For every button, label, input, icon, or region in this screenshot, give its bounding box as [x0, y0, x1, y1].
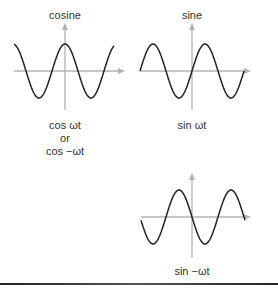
sine-title: sine	[152, 9, 232, 22]
neg-sine-panel	[141, 173, 251, 258]
sine-y-arrow-icon	[189, 23, 195, 30]
bottom-rule	[0, 283, 278, 285]
cosine-caption-3: cos −ωt	[25, 145, 105, 158]
sine-panel	[140, 23, 251, 110]
neg-sine-caption: sin −ωt	[152, 265, 232, 278]
cosine-caption-1: cos ωt	[25, 119, 105, 132]
cosine-x-arrow-icon	[118, 68, 125, 74]
cosine-title: cosine	[25, 9, 105, 22]
sine-x-arrow-icon	[244, 68, 251, 74]
sine-caption: sin ωt	[152, 119, 232, 132]
cosine-y-arrow-icon	[62, 23, 68, 30]
neg-sine-y-arrow-icon	[189, 173, 195, 180]
cosine-caption-2: or	[25, 132, 105, 145]
cosine-panel	[14, 23, 125, 110]
